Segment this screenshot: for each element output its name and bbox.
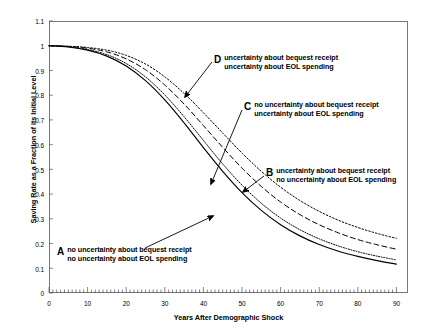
annotation-d: D uncertainty about bequest receipt unce… bbox=[214, 54, 338, 71]
annotation-d-line2: uncertainty about EOL spending bbox=[224, 62, 333, 71]
annotation-b-key: B bbox=[266, 167, 273, 178]
annotation-c: C no uncertainty about bequest receipt u… bbox=[244, 101, 379, 118]
chart-figure: 1.1 1 0.9 0.8 0.7 0.6 0.5 0.4 0.3 0.2 0.… bbox=[0, 0, 426, 334]
curve-c bbox=[49, 46, 396, 250]
annotation-b-line2: no uncertainty about EOL spending bbox=[276, 175, 396, 184]
annotation-d-key: D bbox=[214, 54, 221, 65]
annotation-b: B uncertainty about bequest receipt no u… bbox=[266, 167, 396, 184]
arrow-b bbox=[243, 176, 264, 192]
arrow-d bbox=[185, 62, 212, 97]
annotation-c-key: C bbox=[244, 101, 251, 112]
curve-d bbox=[49, 46, 396, 239]
annotation-c-text: no uncertainty about bequest receipt unc… bbox=[254, 101, 378, 118]
annotation-c-line2: uncertainty about EOL spending bbox=[254, 109, 363, 118]
annotation-arrows bbox=[145, 62, 264, 248]
arrow-c bbox=[211, 110, 242, 184]
curve-b bbox=[49, 46, 396, 260]
annotation-a-text: no uncertainty about bequest receipt no … bbox=[67, 246, 191, 263]
annotation-d-text: uncertainty about bequest receipt uncert… bbox=[224, 54, 338, 71]
annotation-a-key: A bbox=[57, 246, 64, 257]
annotation-b-text: uncertainty about bequest receipt no unc… bbox=[276, 167, 396, 184]
annotation-a: A no uncertainty about bequest receipt n… bbox=[57, 246, 192, 263]
arrow-a bbox=[145, 216, 213, 248]
annotation-a-line2: no uncertainty about EOL spending bbox=[67, 254, 187, 263]
